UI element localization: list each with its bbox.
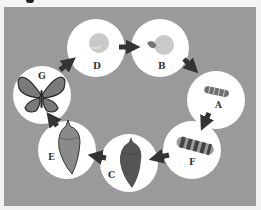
label-c: C xyxy=(108,170,115,180)
hatching-egg-icon xyxy=(154,35,174,55)
arrow-c-to-e xyxy=(95,156,106,158)
label-f: F xyxy=(189,157,196,167)
label-e: E xyxy=(48,152,55,162)
stage-c: C xyxy=(100,134,158,192)
lifecycle-diagram: D B A F C xyxy=(0,0,261,210)
stage-b: B xyxy=(131,19,189,77)
label-b: B xyxy=(158,61,166,71)
stage-d: D xyxy=(67,19,125,77)
stage-a: A xyxy=(187,71,245,129)
stage-f: F xyxy=(163,121,221,179)
egg-icon xyxy=(89,33,109,53)
label-a: A xyxy=(214,100,223,110)
arrow-b-to-a xyxy=(184,59,193,68)
stage-g: G xyxy=(13,66,71,124)
stage-e: E xyxy=(38,120,96,179)
arrow-f-to-c xyxy=(156,155,169,158)
label-d: D xyxy=(93,61,101,71)
label-g: G xyxy=(38,71,46,81)
arrow-g-to-d xyxy=(60,62,70,70)
